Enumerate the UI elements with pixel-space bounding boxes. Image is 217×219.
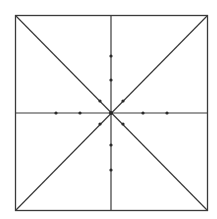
dot-down-1 [109, 143, 112, 146]
dot-right-2 [165, 111, 168, 114]
square-diagram [0, 0, 217, 219]
dot-up-2 [109, 54, 112, 57]
dot-right-1 [141, 111, 144, 114]
dot-left-1 [78, 111, 81, 114]
dot-up-1 [109, 78, 112, 81]
dot-diag-ur [121, 99, 124, 102]
dot-center [109, 111, 113, 115]
dot-down-2 [109, 168, 112, 171]
dot-diag-lr [121, 122, 124, 125]
dot-diag-ll [98, 122, 101, 125]
dot-diag-ul [98, 99, 101, 102]
dot-left-2 [54, 111, 57, 114]
